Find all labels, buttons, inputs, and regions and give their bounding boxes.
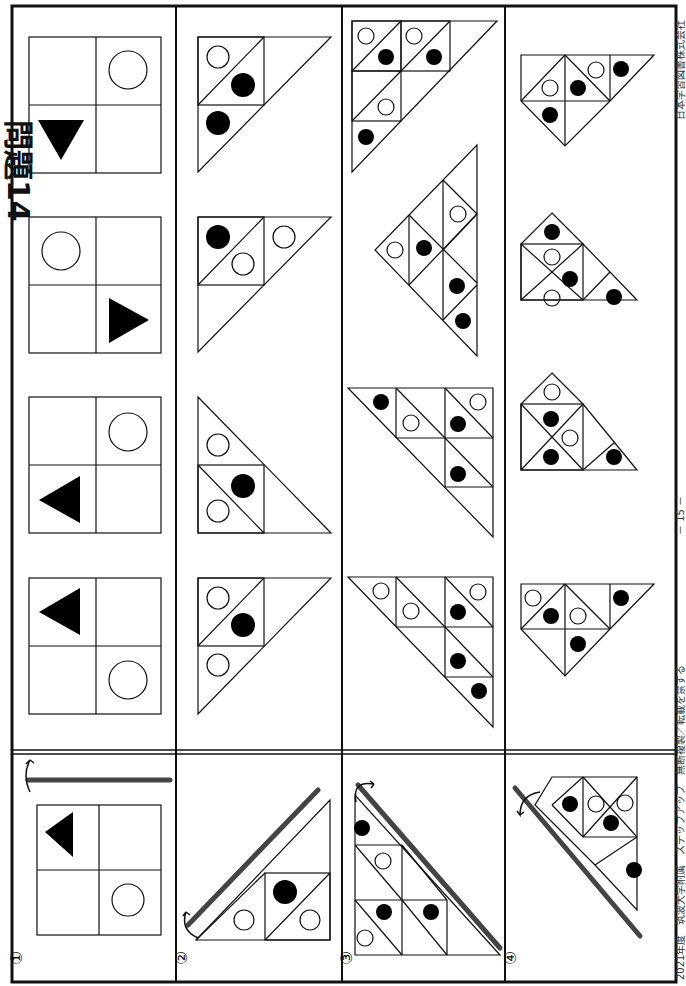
page-number: － 15 －: [675, 496, 686, 535]
page-title: 問題14: [1, 120, 36, 222]
question-number-4: ④: [501, 951, 520, 965]
question-number-3: ③: [337, 951, 356, 965]
worksheet: 問題14 2021年度 筑波大学附属 ステップアップ 無断複製／転載を禁ずる －…: [0, 0, 686, 986]
footer-right: 日本学習図書株式会社: [674, 20, 686, 120]
footer-left: 2021年度 筑波大学附属 ステップアップ 無断複製／転載を禁ずる: [674, 665, 686, 980]
question-number-1: ①: [7, 951, 26, 965]
question-number-2: ②: [172, 951, 191, 965]
